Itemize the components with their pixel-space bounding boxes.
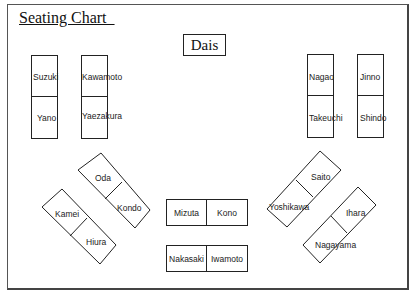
seat-label: Oda [95, 173, 111, 183]
seating-chart: Seating Chart Dais Suzuki Yano Kawamoto … [0, 0, 415, 296]
seat-label: Kondo [117, 203, 142, 213]
diagonal-desks [0, 0, 415, 296]
seat-label: Yoshikawa [269, 202, 309, 212]
seat-label: Hiura [86, 237, 106, 247]
seat-label: Ihara [346, 208, 365, 218]
seat-label: Saito [311, 172, 330, 182]
seat-label: Kamei [55, 209, 79, 219]
seat-label: Nagayama [315, 240, 356, 250]
desk-saito-yoshikawa [267, 151, 341, 227]
